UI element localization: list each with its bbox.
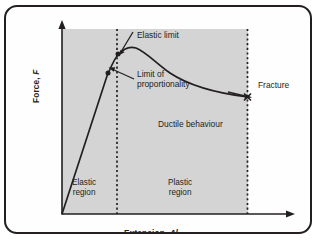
plastic-region-line2: region (168, 188, 192, 198)
x-axis-label-text: Extension, (124, 229, 170, 234)
figure-frame: Force, F Extension, Δl Elastic limit Lim… (4, 5, 312, 234)
y-axis-label: Force, F (32, 70, 42, 103)
elastic-region-label: Elastic region (72, 178, 96, 197)
x-axis-label: Extension, Δl (124, 229, 178, 234)
limit-of-proportionality-line2: proportionality (137, 80, 190, 90)
ductile-behaviour-label: Ductile behaviour (158, 120, 223, 130)
y-axis-label-symbol: F (32, 70, 41, 75)
x-axis-label-symbol: Δl (170, 229, 178, 234)
plastic-region-line1: Plastic (168, 178, 192, 188)
elastic-region-line2: region (72, 188, 96, 198)
elastic-limit-label: Elastic limit (137, 31, 179, 41)
plastic-region-label: Plastic region (168, 178, 192, 197)
limit-of-proportionality-marker (106, 71, 111, 76)
fracture-label: Fracture (258, 81, 289, 91)
elastic-region-line1: Elastic (72, 178, 96, 188)
limit-of-proportionality-label: Limit of proportionality (137, 70, 190, 90)
y-axis-label-text: Force, (32, 75, 41, 103)
